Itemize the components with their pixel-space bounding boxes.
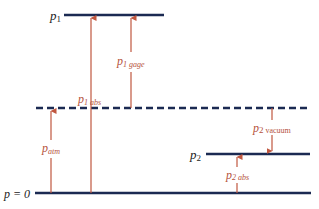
p1-gage-label: p1 gage xyxy=(116,54,145,69)
pressure-diagram: p1 p2 p = 0 p1 abs p1 gage patm p2vacuum… xyxy=(0,0,319,209)
p2-level-label: p2 xyxy=(189,147,201,163)
p-atm-label: patm xyxy=(41,141,60,156)
p2-vacuum-label: p2vacuum xyxy=(252,121,292,135)
p1-level-label: p1 xyxy=(49,8,61,24)
zero-level-label: p = 0 xyxy=(3,187,30,201)
p2-abs-label: p2 abs xyxy=(225,168,249,182)
p1-abs-label: p1 abs xyxy=(77,92,101,107)
